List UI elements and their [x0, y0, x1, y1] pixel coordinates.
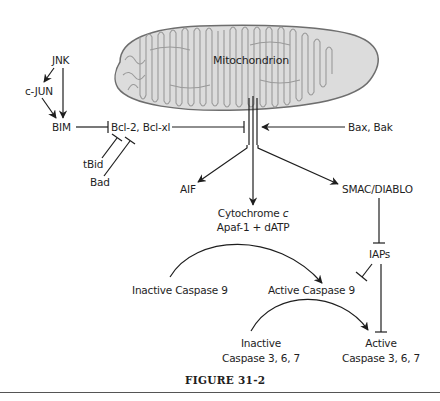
- edge-cjun-bim: [42, 98, 56, 118]
- mitochondrion-label: Mitochondrion: [213, 54, 289, 67]
- node-smac-diablo: SMAC/DIABLO: [342, 183, 413, 196]
- node-inactive-caspase-367-line1: Inactive: [241, 337, 281, 350]
- node-apaf: Apaf-1 + dATP: [217, 221, 290, 234]
- edge-inactive9-active9: [170, 244, 322, 283]
- node-cytochrome-c: Cytochrome c: [218, 207, 288, 220]
- cytochrome-italic-c: c: [283, 207, 289, 219]
- node-cjun: c-JUN: [25, 85, 53, 98]
- node-active-caspase-367-line1: Active: [365, 337, 396, 350]
- node-inactive-caspase-367-line2: Caspase 3, 6, 7: [222, 352, 300, 365]
- edge-mito-aif: [198, 145, 247, 182]
- node-inactive-caspase-9: Inactive Caspase 9: [132, 284, 228, 297]
- edge-bad-bcl2: [104, 141, 130, 176]
- edge-tbid-bcl2: [102, 138, 117, 158]
- node-iaps: IAPs: [369, 248, 390, 261]
- figure-caption: FIGURE 31-2: [185, 374, 265, 386]
- node-bcl2: Bcl-2, Bcl-xl: [111, 121, 170, 134]
- node-jnk: JNK: [52, 54, 69, 67]
- node-aif: AIF: [180, 183, 196, 196]
- cytochrome-text: Cytochrome: [218, 207, 283, 219]
- node-active-caspase-9: Active Caspase 9: [268, 284, 355, 297]
- edge-mito-smac: [258, 145, 338, 184]
- edge-iaps-casp9: [362, 264, 372, 277]
- node-bad: Bad: [90, 176, 110, 189]
- node-bim: BIM: [52, 121, 71, 134]
- mitochondrion-shape: [115, 25, 378, 110]
- node-tbid: tBid: [83, 158, 103, 171]
- node-baxbak: Bax, Bak: [348, 121, 393, 134]
- node-active-caspase-367-line2: Caspase 3, 6, 7: [342, 352, 420, 365]
- edge-inactive367-active367: [251, 299, 368, 331]
- edge-jnk-cjun: [44, 68, 54, 82]
- bottom-rule: [0, 392, 440, 393]
